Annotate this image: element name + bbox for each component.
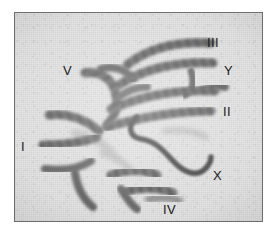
micrograph-plate: III Y II X IV I V [14,12,263,222]
chromosome-x [131,117,211,173]
chromosome-v [85,73,117,125]
chromosome-label-y: Y [224,64,233,77]
chromosome-label-iv: IV [163,203,176,216]
chromosome-label-x: X [213,169,222,182]
chromosome-left-lower-arm [45,161,91,170]
figure-root: III Y II X IV I V [0,0,279,237]
chromosome-label-iii: III [207,36,219,49]
chromosome-label-i: I [21,140,25,153]
chromosome-i [49,115,99,131]
chromosome-iv-homolog [127,188,173,193]
chromosome-label-v: V [63,64,72,77]
chromosome-left-descending-arm [75,173,93,207]
chromosome-label-ii: II [223,105,231,118]
chromosome-bottom-blur-mass [149,198,179,201]
chromosome-ii-homolog [107,111,211,127]
